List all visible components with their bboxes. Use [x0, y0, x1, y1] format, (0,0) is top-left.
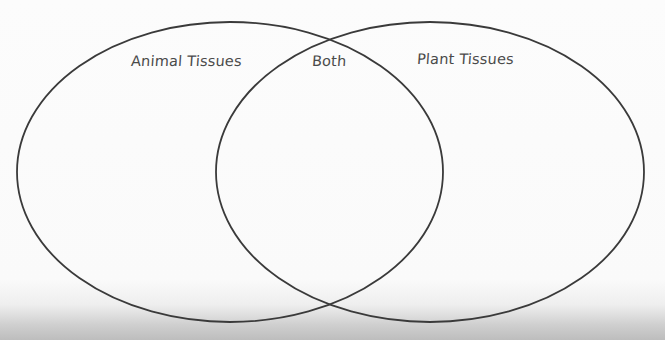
worksheet-page: Animal Tissues Both Plant Tissues ers, I… — [0, 0, 665, 340]
both-label: Both — [311, 53, 347, 69]
animal-tissues-label: Animal Tissues — [130, 53, 242, 69]
venn-diagram — [0, 0, 665, 340]
plant-tissues-label: Plant Tissues — [416, 51, 514, 67]
plant-tissues-circle — [216, 22, 644, 322]
